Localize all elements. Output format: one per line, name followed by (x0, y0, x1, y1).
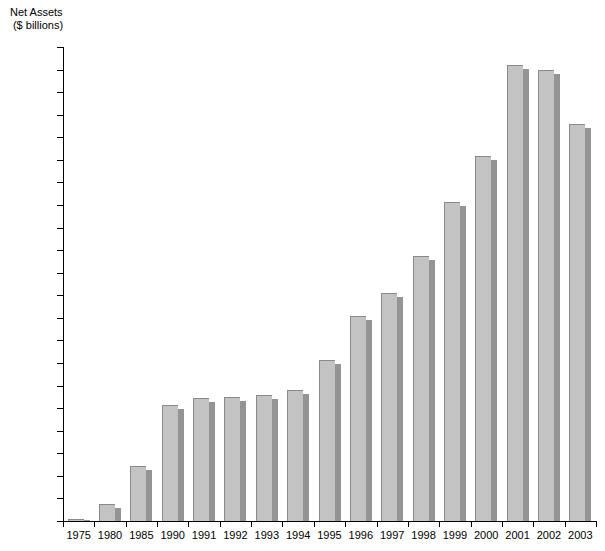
y-tick-mark (57, 205, 63, 206)
bar (569, 124, 591, 521)
y-tick-mark (57, 137, 63, 138)
x-tick-mark (251, 521, 252, 527)
bar-shadow (460, 206, 466, 521)
bar (99, 504, 121, 521)
y-tick-mark (57, 431, 63, 432)
bar-shadow (366, 320, 372, 521)
bar-face (319, 360, 335, 521)
x-tick-label: 1992 (220, 529, 251, 542)
x-tick-mark (377, 521, 378, 527)
bar (193, 398, 215, 521)
bar-shadow (240, 401, 246, 521)
bar-shadow (585, 128, 591, 521)
bar (130, 466, 152, 521)
bar-face (193, 398, 209, 521)
y-tick-mark (57, 453, 63, 454)
x-tick-mark (471, 521, 472, 527)
x-tick-label: 2001 (502, 529, 533, 542)
bar (287, 390, 309, 521)
bar-face (569, 124, 585, 521)
bar-face (162, 405, 178, 521)
bar-shadow (146, 470, 152, 521)
bar (68, 519, 90, 521)
x-tick-label: 1975 (63, 529, 94, 542)
bar (319, 360, 341, 521)
bar-face (381, 293, 397, 521)
x-tick-mark (157, 521, 158, 527)
y-tick-mark (57, 363, 63, 364)
y-tick-mark (57, 408, 63, 409)
y-tick-mark (57, 386, 63, 387)
bar-shadow (429, 260, 435, 521)
bar-shadow (209, 402, 215, 521)
bar-shadow (397, 297, 403, 521)
x-tick-mark (126, 521, 127, 527)
x-tick-label: 2002 (533, 529, 564, 542)
x-tick-mark (314, 521, 315, 527)
y-tick-mark (57, 47, 63, 48)
bar-face (287, 390, 303, 521)
bar-shadow (335, 364, 341, 521)
y-tick-mark (57, 318, 63, 319)
x-tick-mark (408, 521, 409, 527)
bar (162, 405, 184, 521)
y-tick-mark (57, 70, 63, 71)
x-tick-mark (220, 521, 221, 527)
bar-shadow (115, 508, 121, 521)
x-tick-mark (565, 521, 566, 527)
x-tick-mark (94, 521, 95, 527)
x-tick-mark (345, 521, 346, 527)
bar-face (256, 395, 272, 521)
y-axis-title-line2: ($ billions) (10, 19, 66, 32)
x-tick-label: 1998 (408, 529, 439, 542)
bar (538, 70, 560, 521)
x-tick-label: 1999 (439, 529, 470, 542)
bar-face (538, 70, 554, 521)
x-tick-mark (596, 521, 597, 527)
y-axis-line (63, 47, 64, 522)
y-tick-mark (57, 115, 63, 116)
bar-face (507, 65, 523, 521)
bar-face (130, 466, 146, 521)
x-tick-label: 1985 (126, 529, 157, 542)
x-tick-mark (439, 521, 440, 527)
x-tick-mark (502, 521, 503, 527)
x-axis-line (63, 521, 596, 522)
y-tick-mark (57, 250, 63, 251)
x-tick-label: 1997 (377, 529, 408, 542)
y-tick-mark (57, 228, 63, 229)
bar (350, 316, 372, 521)
bar (381, 293, 403, 521)
bar (507, 65, 529, 521)
bar (475, 156, 497, 521)
bar (413, 256, 435, 521)
bar (224, 397, 246, 521)
bar-face (413, 256, 429, 521)
x-tick-mark (188, 521, 189, 527)
x-tick-label: 1994 (282, 529, 313, 542)
y-axis-title-line1: Net Assets (10, 6, 66, 19)
y-tick-mark (57, 476, 63, 477)
bar-shadow (303, 394, 309, 521)
bar-shadow (523, 69, 529, 521)
bar-chart: Net Assets ($ billions) 0100200300400500… (0, 0, 605, 551)
x-tick-label: 2003 (565, 529, 596, 542)
y-axis-title: Net Assets ($ billions) (10, 6, 66, 32)
x-tick-label: 1996 (345, 529, 376, 542)
bar-face (444, 202, 460, 521)
y-tick-mark (57, 182, 63, 183)
bar-shadow (178, 409, 184, 521)
bar-shadow (84, 520, 90, 521)
x-tick-label: 1990 (157, 529, 188, 542)
x-tick-label: 1995 (314, 529, 345, 542)
y-tick-mark (57, 340, 63, 341)
y-tick-mark (57, 273, 63, 274)
bar (256, 395, 278, 521)
y-tick-mark (57, 160, 63, 161)
bar-face (475, 156, 491, 521)
x-tick-mark (282, 521, 283, 527)
y-tick-mark (57, 295, 63, 296)
x-tick-label: 1993 (251, 529, 282, 542)
bar-face (350, 316, 366, 521)
bar-face (68, 519, 84, 521)
